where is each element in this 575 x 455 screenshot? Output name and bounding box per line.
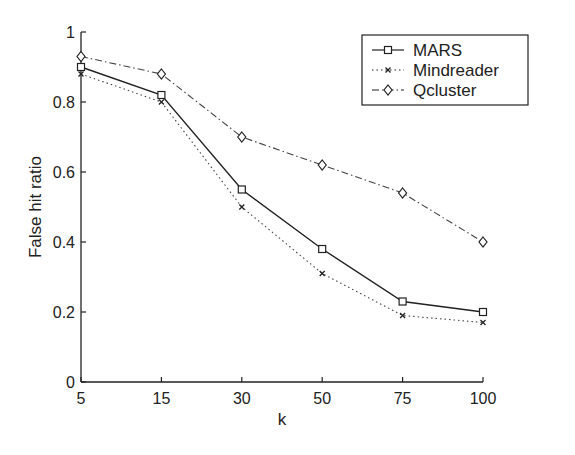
y-tick-label: 0.2	[53, 304, 75, 321]
square-marker	[319, 246, 326, 253]
diamond-marker	[479, 237, 487, 247]
square-marker	[385, 47, 392, 54]
y-tick-label: 0.6	[53, 164, 75, 181]
series-mindreader	[79, 72, 486, 326]
square-marker	[158, 92, 165, 99]
y-tick-label: 0.4	[53, 234, 75, 251]
x-tick-label: 15	[153, 390, 171, 407]
x-marker	[320, 271, 325, 276]
x-tick-label: 100	[470, 390, 497, 407]
x-tick-label: 50	[313, 390, 331, 407]
diamond-marker	[238, 132, 246, 142]
diamond-marker	[157, 69, 165, 79]
legend-label: Mindreader	[413, 61, 499, 80]
diamond-marker	[399, 188, 407, 198]
square-marker	[238, 186, 245, 193]
square-marker	[399, 298, 406, 305]
x-tick-label: 75	[394, 390, 412, 407]
legend-label: Qcluster	[413, 81, 477, 100]
x-axis-label: k	[278, 410, 287, 429]
x-marker	[239, 205, 244, 210]
square-marker	[480, 309, 487, 316]
legend: MARSMindreaderQcluster	[362, 35, 528, 105]
x-marker	[159, 100, 164, 105]
y-tick-label: 0.8	[53, 94, 75, 111]
y-tick-label: 1	[66, 24, 75, 41]
y-axis-label: False hit ratio	[26, 156, 45, 258]
diamond-marker	[318, 160, 326, 170]
diamond-marker	[77, 52, 85, 62]
x-tick-label: 5	[77, 390, 86, 407]
x-tick-label: 30	[233, 390, 251, 407]
square-marker	[78, 64, 85, 71]
legend-label: MARS	[413, 41, 462, 60]
y-tick-label: 0	[66, 374, 75, 391]
line-chart: 51530507510000.20.40.60.81 k False hit r…	[0, 0, 575, 455]
